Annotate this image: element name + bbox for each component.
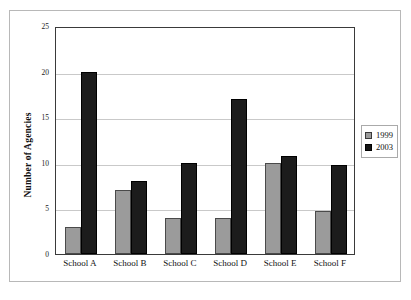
- legend-entry: 1999: [365, 130, 393, 141]
- bar: [315, 211, 331, 254]
- bar-group: [115, 28, 147, 254]
- y-axis-tick-label: 15: [42, 114, 50, 122]
- x-axis-tick-label: School C: [163, 258, 196, 268]
- y-axis-tick-label: 25: [42, 23, 50, 31]
- bar: [115, 190, 131, 254]
- bar-group: [265, 28, 297, 254]
- y-axis-tick-labels: 0510152025: [34, 27, 52, 255]
- bars-layer: [56, 28, 354, 254]
- y-axis-tick-label: 10: [42, 160, 50, 168]
- black-square-icon: [365, 144, 372, 151]
- bar: [181, 163, 197, 254]
- x-axis-tick-label: School F: [314, 258, 346, 268]
- bar: [81, 72, 97, 254]
- legend-entry: 2003: [365, 142, 393, 153]
- plot-area: [55, 27, 355, 255]
- legend-label: 2003: [376, 143, 393, 152]
- bar-group: [165, 28, 197, 254]
- bar: [165, 218, 181, 254]
- bar-chart-figure: Number of Agencies 0510152025 School ASc…: [0, 0, 411, 300]
- x-axis-tick-label: School B: [113, 258, 146, 268]
- y-axis-tick-label: 5: [45, 206, 49, 214]
- bar: [231, 99, 247, 254]
- bar: [131, 181, 147, 254]
- x-axis-tick-label: School D: [213, 258, 247, 268]
- y-axis-tick-label: 0: [45, 251, 49, 259]
- bar: [265, 163, 281, 254]
- chart-legend: 19992003: [361, 125, 398, 158]
- y-axis-title-text: Number of Agencies: [23, 112, 33, 197]
- x-axis-tick-label: School A: [63, 258, 96, 268]
- x-axis-tick-labels: School ASchool BSchool CSchool DSchool E…: [55, 258, 355, 274]
- gray-square-icon: [365, 132, 372, 139]
- legend-label: 1999: [376, 131, 393, 140]
- bar-group: [215, 28, 247, 254]
- bar: [331, 165, 347, 254]
- bar-group: [65, 28, 97, 254]
- x-axis-tick-label: School E: [264, 258, 297, 268]
- bar: [65, 227, 81, 254]
- bar: [215, 218, 231, 254]
- bar: [281, 156, 297, 254]
- y-axis-tick-label: 20: [42, 69, 50, 77]
- bar-group: [315, 28, 347, 254]
